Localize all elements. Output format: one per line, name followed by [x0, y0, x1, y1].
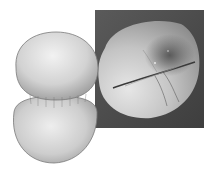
rendered-model	[0, 0, 110, 172]
figure	[0, 0, 217, 172]
upper-lobe	[16, 32, 98, 100]
sem-grain-image	[95, 10, 204, 128]
lower-lobe	[13, 96, 97, 163]
sem-micrograph	[95, 10, 204, 128]
